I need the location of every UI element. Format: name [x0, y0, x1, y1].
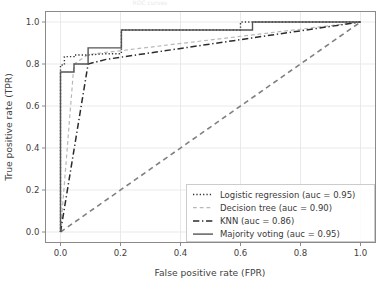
y-tick-label-4: 0.8 — [26, 59, 40, 69]
x-tick-label-3: 0.6 — [234, 248, 248, 258]
y-tick-label-5: 1.0 — [26, 17, 40, 27]
legend-label-1: Decision tree (auc = 0.90) — [220, 203, 332, 213]
x-tick-label-2: 0.4 — [174, 248, 188, 258]
chart-legend[interactable]: Logistic regression (auc = 0.95)Decision… — [187, 185, 375, 242]
x-tick-label-4: 0.8 — [294, 248, 308, 258]
x-tick-label-0: 0.0 — [54, 248, 68, 258]
y-tick-label-0: 0.0 — [26, 227, 40, 237]
roc-chart-canvas: ROC curves 0.00.20.40.60.81.0 0.00.20.40… — [0, 0, 386, 288]
legend-label-2: KNN (auc = 0.86) — [220, 216, 294, 226]
figure-partial-title: ROC curves — [133, 0, 168, 6]
x-axis-label: False positive rate (FPR) — [155, 267, 266, 278]
y-tick-label-2: 0.4 — [26, 143, 40, 153]
figure-background — [0, 0, 386, 288]
y-tick-label-1: 0.2 — [26, 185, 40, 195]
y-axis-label: True positive rate (TPR) — [3, 73, 14, 182]
y-tick-label-3: 0.6 — [26, 101, 40, 111]
x-tick-label-1: 0.2 — [114, 248, 128, 258]
legend-label-0: Logistic regression (auc = 0.95) — [220, 190, 355, 200]
x-tick-label-5: 1.0 — [354, 248, 368, 258]
roc-curve-figure: ROC curves 0.00.20.40.60.81.0 0.00.20.40… — [0, 0, 386, 288]
legend-label-3: Majority voting (auc = 0.95) — [220, 229, 340, 239]
